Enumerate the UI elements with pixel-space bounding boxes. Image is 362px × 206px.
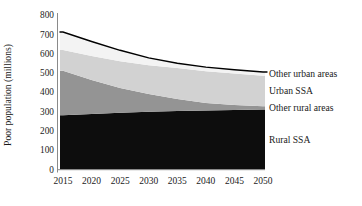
poor-population-stacked-area-figure: 0100200300400500600700800 20152020202520… [0,0,362,206]
y-tick-label: 600 [40,49,54,59]
x-tick-label: 2040 [196,176,215,186]
y-tick-label: 0 [49,165,54,175]
series-label-other-rural-areas: Other rural areas [269,102,334,113]
plot-areas [60,32,265,170]
x-tick-labels: 20152020202520302035204020452050 [54,176,273,186]
x-tick-label: 2045 [225,176,244,186]
x-tick-label: 2025 [111,176,130,186]
series-label-other-urban-areas: Other urban areas [269,68,337,79]
series-label-rural-ssa: Rural SSA [269,134,310,145]
area-rural-ssa [60,110,265,170]
x-tick-label: 2015 [54,176,73,186]
y-axis-title: Poor population (millions) [2,44,14,146]
y-tick-label: 700 [40,30,54,40]
x-tick-label: 2035 [168,176,187,186]
stacked-area-chart: 0100200300400500600700800 20152020202520… [0,0,362,206]
series-labels: Other urban areasUrban SSAOther rural ar… [269,68,337,145]
y-tick-label: 400 [40,87,54,97]
x-tick-label: 2020 [82,176,101,186]
y-tick-label: 800 [40,10,54,20]
x-tick-label: 2030 [139,176,158,186]
y-tick-label: 300 [40,107,54,117]
y-tick-labels: 0100200300400500600700800 [40,10,54,175]
x-tick-label: 2050 [254,176,273,186]
y-tick-label: 500 [40,68,54,78]
y-tick-label: 100 [40,145,54,155]
series-label-urban-ssa: Urban SSA [269,85,313,96]
y-tick-label: 200 [40,126,54,136]
